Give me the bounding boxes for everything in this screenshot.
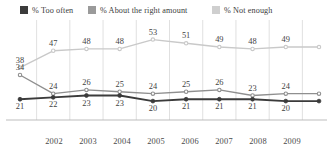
data-label: 49 xyxy=(282,35,290,44)
legend-swatch-about-right-icon xyxy=(88,6,96,14)
x-axis-tick-2005: 2005 xyxy=(147,136,165,147)
x-axis-tick-2007: 2007 xyxy=(215,136,233,147)
data-label: 21 xyxy=(16,102,24,111)
data-label: 21 xyxy=(215,102,223,111)
data-label: 48 xyxy=(115,37,123,46)
data-point xyxy=(284,99,288,103)
data-label: 20 xyxy=(149,104,157,113)
data-label: 49 xyxy=(215,35,223,44)
legend-swatch-too-often-icon xyxy=(20,6,28,14)
data-label: 48 xyxy=(82,37,90,46)
data-label: 25 xyxy=(182,80,190,89)
data-point xyxy=(118,90,121,93)
legend-label-about-right: % About the right amount xyxy=(100,6,187,15)
legend-item-about-right: % About the right amount xyxy=(88,3,187,17)
data-label: 34 xyxy=(16,63,25,72)
line-chart-svg: 3847484853514948493424262524252623242122… xyxy=(0,20,333,132)
data-label: 23 xyxy=(115,99,123,108)
x-axis-tick-2002: 2002 xyxy=(45,136,63,147)
data-point xyxy=(184,42,187,45)
data-label: 21 xyxy=(182,102,190,111)
data-label: 24 xyxy=(282,82,291,91)
legend-item-too-often: % Too often xyxy=(20,3,73,17)
data-point xyxy=(251,97,255,101)
data-point xyxy=(284,92,287,95)
data-point xyxy=(284,45,287,48)
data-label: 51 xyxy=(182,31,190,40)
data-point xyxy=(51,95,55,99)
data-point xyxy=(85,94,89,98)
x-axis-tick-2009: 2009 xyxy=(283,136,301,147)
legend-label-too-often: % Too often xyxy=(32,6,73,15)
data-label: 26 xyxy=(215,78,223,87)
data-point xyxy=(184,97,188,101)
gridlines xyxy=(37,20,303,120)
data-point xyxy=(85,88,88,91)
data-point xyxy=(151,92,154,95)
data-point xyxy=(218,88,221,91)
data-label: 24 xyxy=(149,82,158,91)
data-label: 23 xyxy=(82,99,90,108)
x-axis-labels: 20022003200420052006200720082009 xyxy=(0,136,333,150)
data-point xyxy=(52,92,55,95)
data-point xyxy=(218,45,221,48)
data-label: 22 xyxy=(49,100,57,109)
data-point xyxy=(251,94,254,97)
data-point xyxy=(118,94,122,98)
data-label: 53 xyxy=(149,28,157,37)
x-axis-tick-2003: 2003 xyxy=(79,136,97,147)
data-point xyxy=(18,97,22,101)
legend-label-not-enough: % Not enough xyxy=(224,6,273,15)
x-axis-tick-2006: 2006 xyxy=(181,136,199,147)
chart-legend: % Too often % About the right amount % N… xyxy=(0,3,333,19)
legend-item-not-enough: % Not enough xyxy=(212,3,273,17)
data-label: 48 xyxy=(248,37,256,46)
x-axis-tick-2008: 2008 xyxy=(249,136,267,147)
data-point xyxy=(151,99,155,103)
data-point xyxy=(217,97,221,101)
data-label: 47 xyxy=(49,39,57,48)
data-label: 21 xyxy=(248,102,256,111)
data-label: 23 xyxy=(248,84,256,93)
data-point xyxy=(317,45,320,48)
data-point xyxy=(151,38,154,41)
data-label: 24 xyxy=(49,82,58,91)
data-point xyxy=(52,49,55,52)
data-point xyxy=(317,92,320,95)
data-point xyxy=(18,73,21,76)
data-point xyxy=(118,47,121,50)
data-label: 25 xyxy=(115,80,123,89)
x-axis-tick-2004: 2004 xyxy=(113,136,131,147)
data-label: 26 xyxy=(82,78,90,87)
data-point xyxy=(317,99,321,103)
chart-plot-area: 3847484853514948493424262524252623242122… xyxy=(0,20,333,132)
data-point xyxy=(251,47,254,50)
data-label: 20 xyxy=(282,104,290,113)
chart-root: % Too often % About the right amount % N… xyxy=(0,0,333,164)
legend-swatch-not-enough-icon xyxy=(212,6,220,14)
data-point xyxy=(85,47,88,50)
data-point xyxy=(184,90,187,93)
